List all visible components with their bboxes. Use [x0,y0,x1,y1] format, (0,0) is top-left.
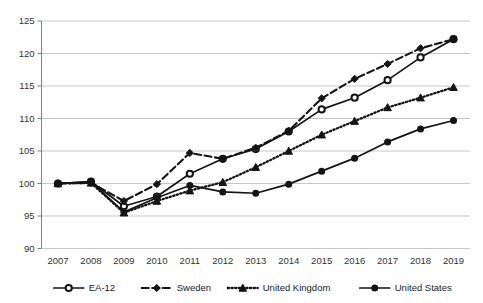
legend-label: United States [395,282,452,293]
x-axis-tick-labels: 2007200820092010201120122013201420152016… [47,255,464,266]
chart-canvas: 9095100105110115120125 20072008200920102… [0,0,483,303]
data-point-marker [372,285,378,291]
data-point-marker [319,168,325,174]
x-tick-label: 2008 [80,255,101,266]
legend-label: EA-12 [89,282,115,293]
legend-label: Sweden [177,282,211,293]
y-tick-label: 115 [19,80,34,91]
legend-item-united-kingdom[interactable]: United Kingdom [228,282,331,293]
data-point-marker [220,189,226,195]
y-tick-label: 100 [19,178,35,189]
x-tick-label: 2012 [212,255,233,266]
legend-item-united-states[interactable]: United States [360,282,452,293]
y-tick-label: 125 [19,15,35,26]
y-tick-label: 90 [24,243,35,254]
series-sweden [54,36,457,205]
x-tick-label: 2019 [443,255,464,266]
data-point-marker [418,126,424,132]
series-line [58,39,454,201]
data-point-marker [88,179,94,185]
x-tick-label: 2014 [278,255,299,266]
data-point-marker [319,106,325,112]
data-point-marker [153,284,160,291]
data-point-marker [385,139,391,145]
data-point-marker [417,54,423,60]
data-point-marker [121,209,127,215]
data-point-marker [187,171,193,177]
x-tick-label: 2011 [180,255,200,266]
data-point-marker [450,84,458,91]
data-point-marker [286,181,292,187]
legend-item-sweden[interactable]: Sweden [142,282,211,293]
data-point-marker [417,45,424,52]
data-point-marker [384,60,391,67]
data-point-marker [384,77,390,83]
y-tick-label: 120 [19,48,35,59]
y-tick-label: 95 [24,210,35,221]
y-axis-tick-labels: 9095100105110115120125 [19,15,42,254]
legend-label: United Kingdom [263,282,331,293]
data-point-marker [66,285,72,291]
x-tick-label: 2015 [311,255,332,266]
legend-item-ea-12[interactable]: EA-12 [54,282,115,293]
data-point-marker [352,155,358,161]
series-line [58,39,454,206]
x-tick-label: 2017 [377,255,398,266]
x-tick-label: 2016 [344,255,365,266]
data-series-layer [54,36,457,216]
data-point-marker [55,181,61,187]
line-chart: 9095100105110115120125 20072008200920102… [0,0,483,303]
x-tick-label: 2009 [113,255,134,266]
data-point-marker [154,195,160,201]
chart-legend: EA-12SwedenUnited KingdomUnited States [54,282,452,293]
data-point-marker [352,95,358,101]
x-tick-label: 2018 [410,255,431,266]
data-point-marker [253,190,259,196]
x-tick-label: 2013 [245,255,266,266]
y-tick-label: 110 [19,113,34,124]
x-tick-label: 2010 [146,255,167,266]
x-tick-label: 2007 [47,255,68,266]
data-point-marker [187,183,193,189]
y-tick-label: 105 [19,145,35,156]
data-point-marker [451,118,457,124]
